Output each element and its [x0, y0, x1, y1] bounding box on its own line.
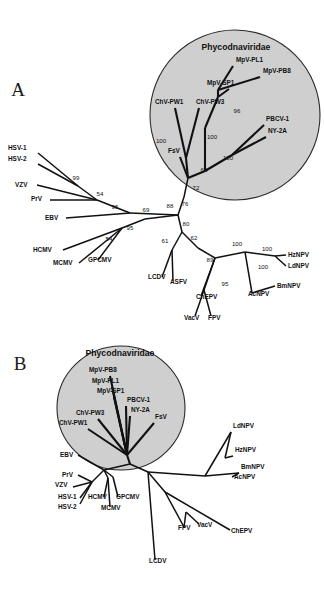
taxon-label: HCMV: [88, 493, 108, 500]
taxon-label: PBCV-1: [266, 115, 290, 122]
taxon-label: EBV: [60, 451, 74, 458]
tree-branch: [148, 472, 205, 476]
taxon-label: PBCV-1: [127, 396, 151, 403]
tree-branch: [172, 232, 182, 250]
taxon-label: HSV-2: [58, 503, 77, 510]
tree-branch: [275, 256, 286, 266]
tree-branch: [130, 213, 178, 215]
taxon-label: ChV-PW1: [59, 419, 88, 426]
taxon-label: MpV-SP1: [207, 79, 235, 87]
taxon-label: BmNPV: [241, 463, 265, 470]
bootstrap-value: 100: [156, 137, 167, 144]
bootstrap-value: 89: [207, 256, 214, 263]
phylogenetic-tree-canvas: PhycodnaviridaeMpV-PL1MpV-PB8MpV-SP1ChV-…: [0, 0, 324, 602]
tree-branch: [225, 456, 233, 458]
bootstrap-value: 100: [223, 154, 234, 161]
taxon-label: MCMV: [101, 504, 121, 511]
clade-label-phycodnaviridae: Phycodnaviridae: [202, 42, 271, 52]
tree-branch: [148, 472, 155, 560]
bootstrap-value: 62: [191, 234, 198, 241]
tree-branch: [148, 472, 165, 492]
bootstrap-value: 100: [207, 133, 218, 140]
bootstrap-value: 95: [127, 224, 134, 231]
taxon-label: ChEPV: [231, 527, 253, 534]
taxon-label: FsV: [155, 413, 167, 420]
taxon-label: HSV-2: [8, 155, 27, 162]
taxon-label: FsV: [168, 147, 180, 154]
tree-branch: [108, 478, 110, 507]
tree-branch: [205, 432, 231, 476]
taxon-label: MCMV: [53, 259, 73, 266]
taxon-label: AcNPV: [234, 473, 256, 480]
taxon-label: LCDV: [149, 557, 167, 564]
bootstrap-value: 100: [262, 245, 273, 252]
taxon-label: HSV-1: [58, 493, 77, 500]
bootstrap-value: 96: [234, 107, 241, 114]
tree-branch: [215, 252, 245, 258]
bootstrap-value: 61: [162, 237, 169, 244]
taxon-label: LdNPV: [288, 262, 310, 269]
taxon-label: ChV-PW1: [155, 98, 184, 105]
bootstrap-value: 76: [182, 200, 189, 207]
taxon-label: VacV: [197, 521, 213, 528]
taxon-label: NY-2A: [131, 406, 150, 413]
taxon-label: MpV-PB8: [89, 366, 117, 374]
taxon-label: ChV-PW3: [76, 409, 105, 416]
taxon-label: GPCMV: [116, 493, 140, 500]
panel-letter-b: B: [14, 353, 27, 374]
taxon-label: MpV-PL1: [236, 56, 263, 64]
taxon-label: NY-2A: [268, 127, 287, 134]
taxon-label: BmNPV: [277, 282, 301, 289]
tree-branch: [178, 215, 182, 232]
taxon-label: FPV: [178, 524, 191, 531]
panel-b: PhycodnaviridaeMpV-PB8MpV-PL1MpV-SP1PBCV…: [14, 346, 266, 564]
bootstrap-value: 54: [106, 235, 113, 242]
tree-branch: [38, 153, 78, 186]
tree-branch: [122, 219, 145, 228]
taxon-label: MpV-SP1: [97, 387, 125, 395]
taxon-label: VacV: [184, 314, 200, 321]
taxon-label: EBV: [45, 214, 59, 221]
tree-branch: [145, 215, 178, 219]
taxon-label: PrV: [62, 471, 74, 478]
panel-letter-a: A: [11, 79, 25, 100]
tree-branch: [245, 252, 252, 293]
phylogenetic-figure: PhycodnaviridaeMpV-PL1MpV-PB8MpV-SP1ChV-…: [0, 0, 324, 602]
tree-branch: [245, 252, 275, 256]
tree-branch: [275, 255, 286, 256]
bootstrap-value: 100: [232, 240, 243, 247]
taxon-label: LdNPV: [233, 422, 255, 429]
tree-branch: [172, 250, 173, 281]
bootstrap-value: 72: [193, 184, 200, 191]
taxon-label: ChEPV: [196, 293, 218, 300]
taxon-label: VZV: [55, 481, 68, 488]
tree-branch: [66, 213, 130, 218]
taxon-label: VZV: [15, 181, 28, 188]
bootstrap-value: 95: [112, 203, 119, 210]
taxon-label: MpV-PB8: [263, 67, 291, 75]
panel-a: PhycodnaviridaeMpV-PL1MpV-PB8MpV-SP1ChV-…: [8, 30, 320, 321]
taxon-label: HzNPV: [288, 251, 310, 258]
taxon-label: GPCMV: [88, 256, 112, 263]
taxon-label: HCMV: [33, 246, 53, 253]
taxon-label: HSV-1: [8, 144, 27, 151]
clade-label-phycodnaviridae: Phycodnaviridae: [86, 348, 155, 358]
taxon-label: LCDV: [148, 273, 166, 280]
bootstrap-value: 99: [73, 174, 80, 181]
bootstrap-value: 100: [258, 263, 269, 270]
taxon-label: ASFV: [170, 278, 188, 285]
bootstrap-value: 88: [167, 202, 174, 209]
tree-branch: [92, 470, 104, 482]
tree-branch: [78, 475, 92, 482]
taxon-label: AcNPV: [248, 290, 270, 297]
taxon-label: MpV-PL1: [92, 377, 119, 385]
taxon-label: ChV-PW3: [196, 98, 225, 105]
bootstrap-value: 80: [183, 220, 190, 227]
bootstrap-value: 66: [201, 166, 208, 173]
bootstrap-value: 54: [97, 190, 104, 197]
bootstrap-value: 95: [222, 280, 229, 287]
taxon-label: HzNPV: [235, 446, 257, 453]
taxon-label: FPV: [208, 314, 221, 321]
taxon-label: PrV: [31, 195, 43, 202]
bootstrap-value: 69: [143, 206, 150, 213]
